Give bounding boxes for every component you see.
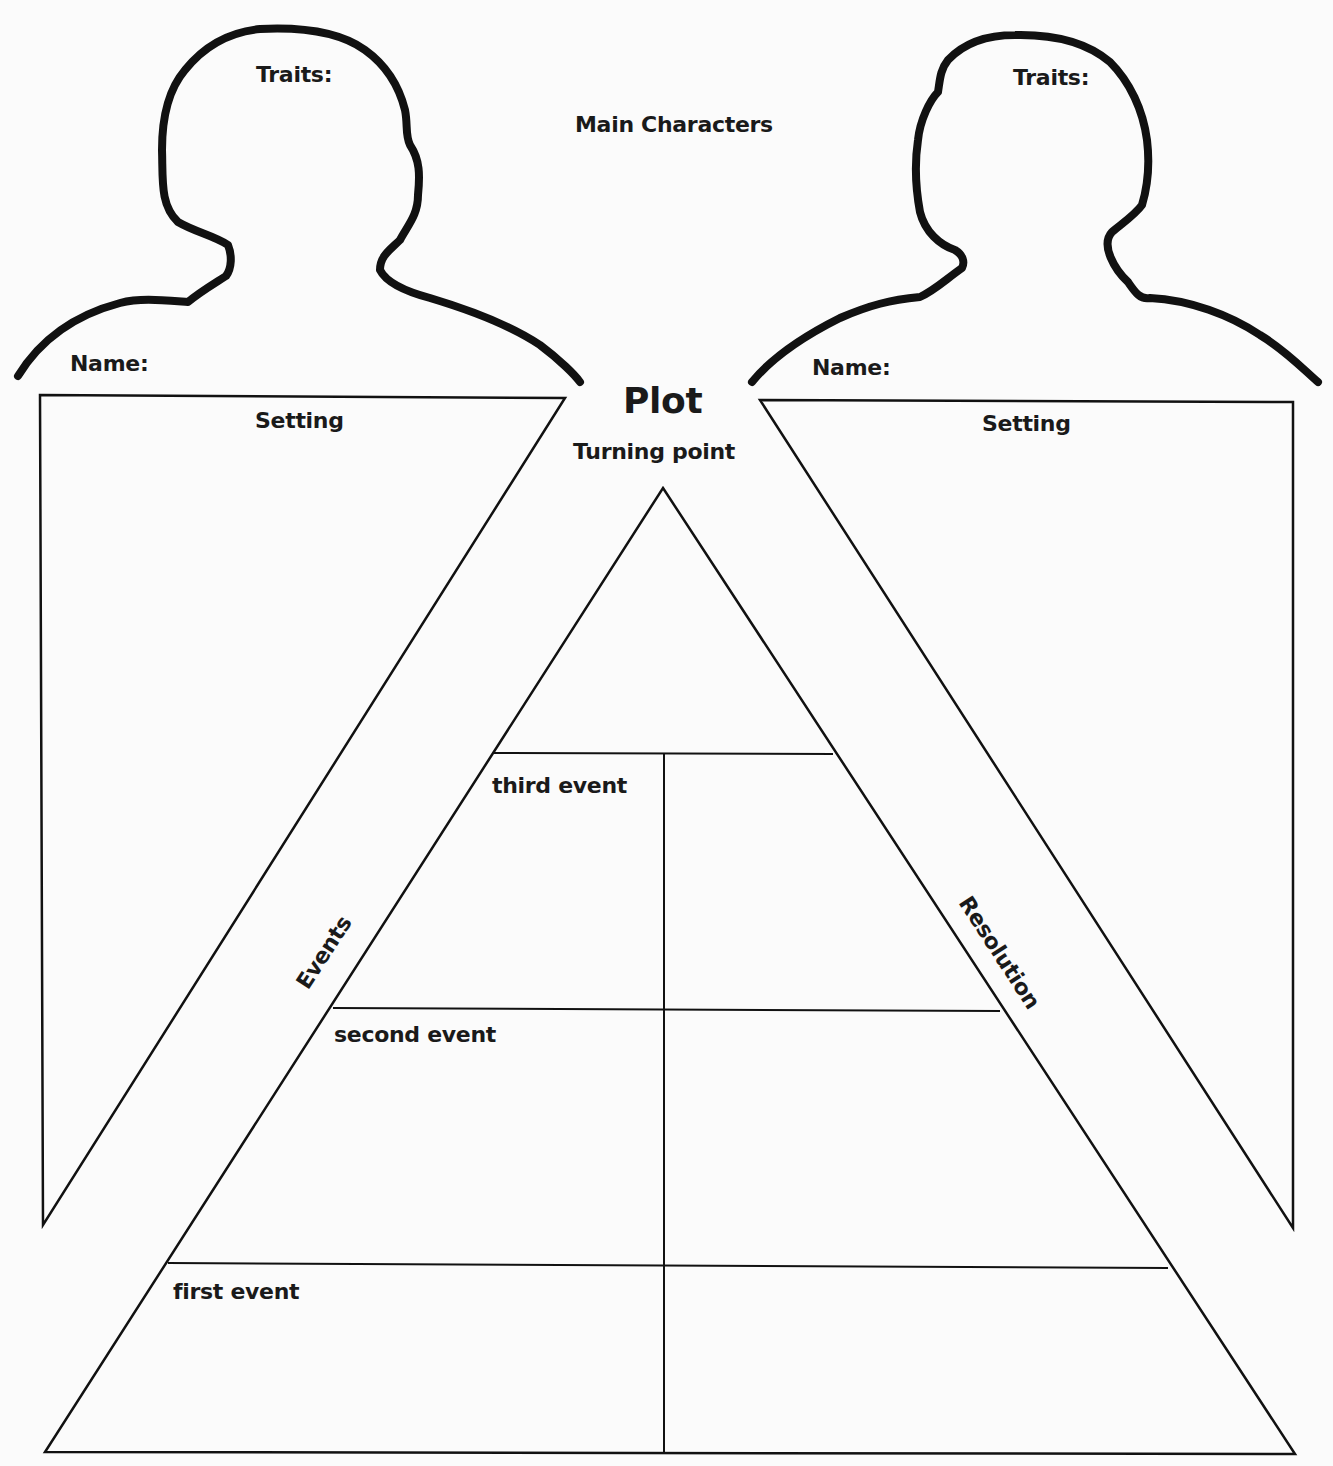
right-setting-label: Setting [982, 411, 1071, 436]
third-event-label: third event [492, 773, 627, 798]
main-characters-title: Main Characters [575, 112, 773, 137]
worksheet-drawing [0, 0, 1333, 1466]
divider-first-event [168, 1263, 1168, 1268]
turning-point-label: Turning point [573, 439, 735, 464]
left-traits-label: Traits: [256, 62, 332, 87]
left-setting-box [40, 395, 565, 1225]
right-traits-label: Traits: [1013, 65, 1089, 90]
plot-title: Plot [623, 380, 702, 421]
left-name-label: Name: [70, 351, 148, 376]
second-event-label: second event [334, 1022, 496, 1047]
plot-pyramid [45, 488, 1295, 1454]
left-setting-label: Setting [255, 408, 344, 433]
first-event-label: first event [173, 1279, 299, 1304]
right-setting-box [760, 400, 1293, 1228]
right-name-label: Name: [812, 355, 890, 380]
divider-second-event [333, 1008, 1000, 1011]
